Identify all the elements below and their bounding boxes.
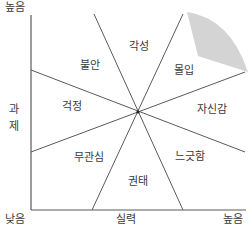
region-label-boredom: 권태 [128, 176, 148, 188]
flow-highlight-area [187, 12, 248, 72]
y-axis-title-2: 제 [9, 121, 19, 133]
region-label-arousal: 각성 [129, 41, 149, 53]
x-axis-title: 실력 [116, 214, 136, 226]
origin-low-label: 낮음 [5, 214, 25, 226]
region-label-flow: 몰입 [174, 65, 194, 77]
region-label-control: 자신감 [197, 104, 227, 116]
region-label-relaxation: 느긋함 [175, 151, 205, 163]
region-label-anxiety: 불안 [80, 60, 100, 72]
region-label-worry: 걱정 [62, 101, 82, 113]
y-axis-high-label: 높음 [5, 2, 25, 14]
x-axis-high-label: 높음 [223, 214, 243, 226]
diagram-canvas [0, 0, 251, 236]
region-label-apathy: 무관심 [74, 152, 104, 164]
y-axis-title-1: 과 [9, 104, 19, 116]
flow-channel-diagram: 높음 과 제 낮음 실력 높음 각성 몰입 자신감 느긋함 권태 무관심 걱정 … [0, 0, 251, 236]
center-point [136, 110, 139, 113]
